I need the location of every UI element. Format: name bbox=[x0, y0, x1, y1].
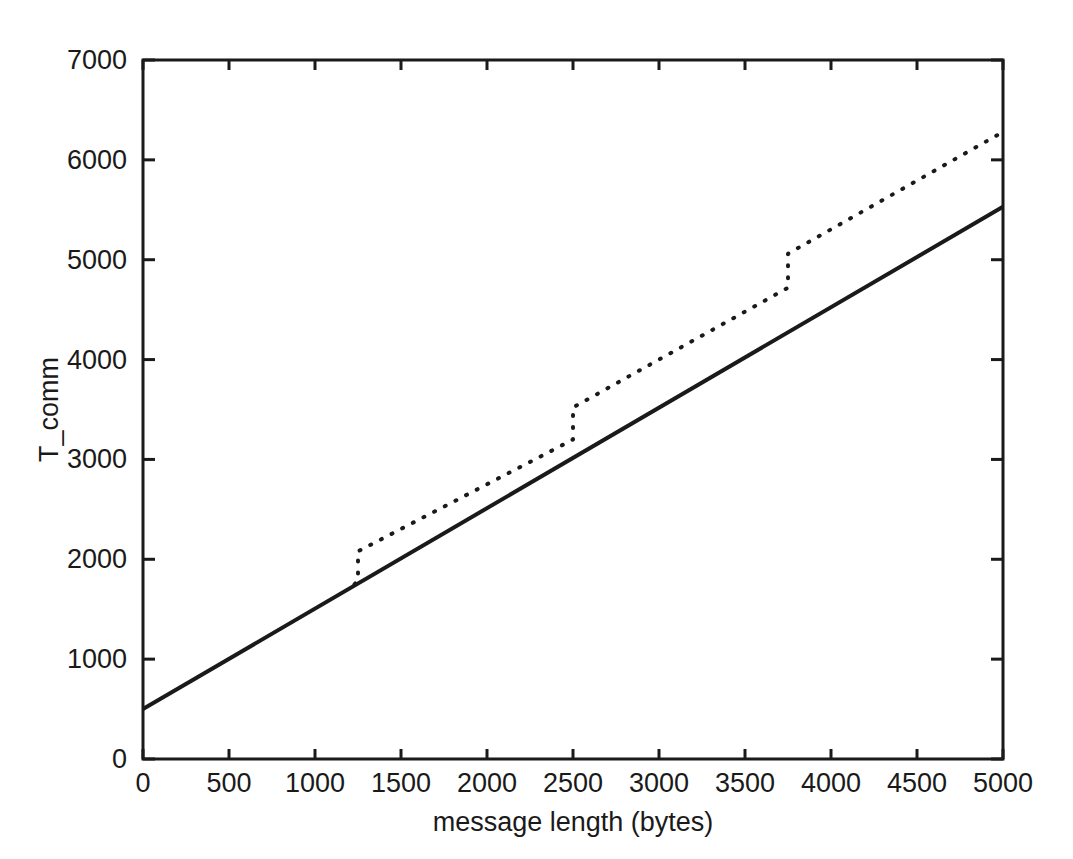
x-tick-label: 2500 bbox=[543, 768, 603, 798]
x-tick-label: 500 bbox=[206, 768, 251, 798]
y-axis-title: T_comm bbox=[34, 357, 64, 462]
x-axis-title: message length (bytes) bbox=[433, 807, 714, 837]
x-tick-label: 4500 bbox=[887, 768, 947, 798]
y-tick-label: 1000 bbox=[67, 644, 127, 674]
chart-figure: 0500100015002000250030003500400045005000… bbox=[0, 0, 1073, 859]
series-dotted bbox=[355, 132, 1003, 584]
x-tick-label: 3000 bbox=[629, 768, 689, 798]
y-tick-label: 6000 bbox=[67, 145, 127, 175]
y-tick-label: 5000 bbox=[67, 245, 127, 275]
y-axis: 01000200030004000500060007000 bbox=[67, 45, 1003, 774]
y-tick-label: 2000 bbox=[67, 544, 127, 574]
y-tick-label: 7000 bbox=[67, 45, 127, 75]
y-tick-label: 0 bbox=[112, 744, 127, 774]
x-tick-label: 2000 bbox=[457, 768, 517, 798]
y-tick-label: 3000 bbox=[67, 444, 127, 474]
x-tick-label: 1500 bbox=[371, 768, 431, 798]
x-tick-label: 5000 bbox=[973, 768, 1033, 798]
chart-canvas: 0500100015002000250030003500400045005000… bbox=[0, 0, 1073, 859]
x-tick-label: 3500 bbox=[715, 768, 775, 798]
series-solid bbox=[143, 207, 1003, 709]
x-tick-label: 4000 bbox=[801, 768, 861, 798]
axis-box bbox=[143, 60, 1003, 759]
y-tick-label: 4000 bbox=[67, 345, 127, 375]
x-tick-label: 0 bbox=[135, 768, 150, 798]
x-axis: 0500100015002000250030003500400045005000 bbox=[135, 60, 1033, 798]
x-tick-label: 1000 bbox=[285, 768, 345, 798]
